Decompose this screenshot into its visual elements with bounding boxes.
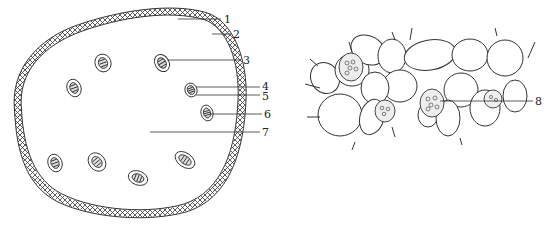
label-8: 8 [535, 96, 542, 107]
label-7: 7 [262, 127, 269, 138]
label-3: 3 [243, 55, 250, 66]
diagram-drawing [0, 0, 546, 227]
stem-cross-section [14, 8, 262, 218]
label-5: 5 [262, 91, 269, 102]
vascular-bundles [45, 52, 215, 188]
parenchyma-tissue [305, 28, 535, 150]
label-1: 1 [224, 14, 231, 25]
label-6: 6 [264, 109, 271, 120]
label-2: 2 [233, 29, 240, 40]
diagram-figure: 1 2 3 4 5 6 7 8 [0, 0, 546, 227]
